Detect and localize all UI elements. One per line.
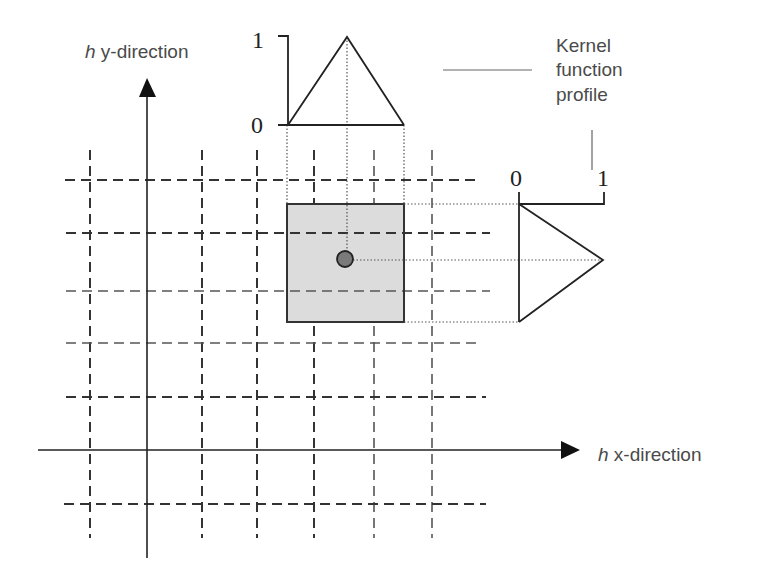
y-axis-arrow-icon (139, 78, 156, 97)
annotation-line-1: Kernel (556, 35, 611, 56)
y-axis (139, 78, 156, 558)
x-axis (38, 441, 580, 459)
y-axis-label: h y-direction (85, 41, 189, 62)
kernel-annotation: Kernel function profile (443, 35, 623, 170)
side-kernel-axis (519, 192, 604, 204)
annotation-line-2: function (556, 59, 623, 80)
kernel-diagram: 1 0 0 1 Kernel function profile h y-dire… (0, 0, 770, 581)
y-axis-label-text: y-direction (96, 41, 189, 62)
x-axis-label: h x-direction (598, 444, 702, 465)
x-axis-label-h: h (598, 444, 609, 465)
top-kernel-axis (278, 36, 288, 125)
center-point (337, 251, 353, 267)
side-kernel-label-max: 1 (597, 165, 609, 191)
top-kernel-label-max: 1 (252, 27, 264, 53)
side-kernel-label-min: 0 (510, 165, 522, 191)
side-kernel-triangle (519, 204, 603, 322)
grid-horizontal-lines (64, 180, 490, 504)
top-kernel-triangle (288, 37, 404, 125)
top-kernel-profile: 1 0 (251, 27, 404, 138)
annotation-line-3: profile (556, 84, 608, 105)
y-axis-label-h: h (85, 41, 96, 62)
x-axis-arrow-icon (561, 441, 580, 459)
top-kernel-label-min: 0 (251, 112, 263, 138)
x-axis-label-text: x-direction (609, 444, 702, 465)
side-kernel-profile: 0 1 (510, 165, 609, 322)
